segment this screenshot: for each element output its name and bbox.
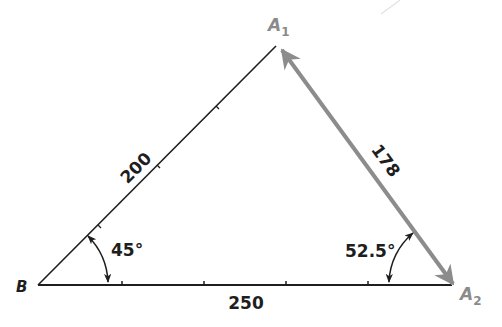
side-label-250: 250 [228, 293, 264, 313]
vertex-label-b: B [16, 278, 27, 296]
triangle-diagram: B A1 A2 200 250 178 45° 52.5° [0, 0, 502, 327]
vertex-label-a1-main: A [266, 15, 281, 35]
side-b-a1-ticks [98, 106, 219, 228]
vertex-label-a2-sub: 2 [473, 294, 481, 308]
vertex-label-a1-sub: 1 [281, 25, 289, 39]
side-label-200: 200 [116, 148, 155, 187]
scan-artifact [381, 0, 400, 14]
vertex-label-a2-main: A [458, 284, 473, 304]
vertex-label-a2: A2 [458, 284, 482, 308]
angle-label-a2: 52.5° [345, 241, 395, 261]
vertex-label-a1: A1 [266, 15, 290, 39]
angle-arc-b [88, 236, 108, 282]
angle-label-b: 45° [111, 240, 143, 260]
